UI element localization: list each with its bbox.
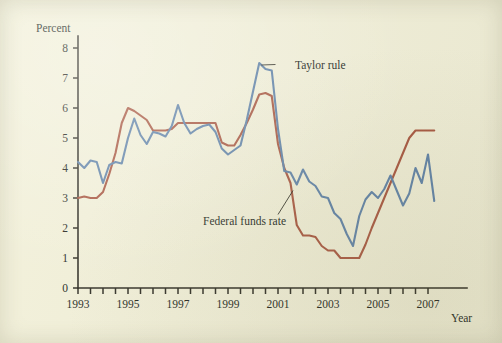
x-tick-label: 2007 — [417, 298, 440, 310]
y-tick-label: 7 — [62, 72, 68, 84]
federal-funds-rate-leader-line — [278, 191, 293, 215]
federal-funds-rate-annotation: Federal funds rate — [203, 215, 286, 227]
x-tick-label: 1999 — [217, 298, 240, 310]
x-tick-label: 2003 — [317, 298, 340, 310]
y-axis-tick-labels: 012345678 — [62, 42, 68, 294]
y-tick-label: 8 — [62, 42, 68, 54]
x-axis-ticks — [78, 288, 428, 294]
x-tick-label: 2001 — [267, 298, 290, 310]
x-axis-tick-labels: 19931995199719992001200320052007 — [67, 298, 440, 310]
y-axis-title: Percent — [36, 22, 71, 34]
line-federal-funds-rate — [78, 93, 434, 258]
taylor-rule-leader-line — [261, 65, 275, 66]
y-tick-label: 6 — [62, 102, 68, 114]
x-tick-label: 1997 — [167, 298, 190, 310]
x-tick-label: 1993 — [67, 298, 90, 310]
chart-canvas: 012345678 199319951997199920012003200520… — [0, 0, 502, 343]
y-tick-label: 3 — [62, 192, 68, 204]
y-tick-label: 5 — [62, 132, 68, 144]
x-tick-label: 1995 — [117, 298, 140, 310]
y-tick-label: 1 — [62, 252, 68, 264]
y-tick-label: 4 — [62, 162, 68, 174]
x-tick-label: 2005 — [367, 298, 390, 310]
figure-panel: 012345678 199319951997199920012003200520… — [0, 0, 502, 343]
y-tick-label: 0 — [62, 282, 68, 294]
taylor-rule-annotation: Taylor rule — [295, 59, 346, 72]
x-axis-title: Year — [451, 312, 472, 324]
y-tick-label: 2 — [62, 222, 68, 234]
